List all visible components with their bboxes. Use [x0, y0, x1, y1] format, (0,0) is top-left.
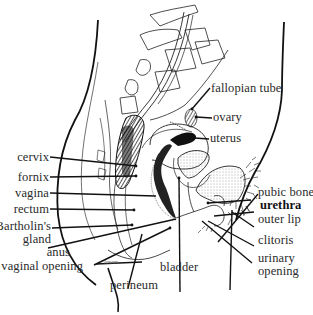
label-outer-lip: outer lip: [258, 213, 301, 226]
vagina-canal: [153, 144, 176, 218]
label-bladder: bladder: [160, 261, 198, 274]
anatomy-diagram: cervix fornix vagina rectum Bartholin's …: [0, 0, 313, 315]
label-urethra: urethra: [260, 199, 301, 212]
label-vagina: vagina: [15, 187, 49, 200]
label-rectum: rectum: [14, 203, 49, 216]
label-perineum: perineum: [110, 279, 158, 292]
label-ovary: ovary: [213, 111, 242, 124]
annotation-lower: lower: [104, 259, 118, 265]
label-clitoris: clitoris: [258, 234, 294, 247]
pubic-bone-shape: [196, 166, 245, 203]
label-urinary-opening-line2: opening: [258, 265, 299, 278]
bladder-shape: [178, 151, 209, 178]
label-vaginal-opening: vaginal opening: [1, 260, 83, 273]
label-anus: anus: [47, 246, 70, 259]
label-cervix: cervix: [17, 151, 49, 164]
label-fallopian-tube: fallopian tube: [211, 82, 281, 95]
label-fornix: fornix: [18, 171, 49, 184]
label-uterus: uterus: [210, 132, 241, 145]
